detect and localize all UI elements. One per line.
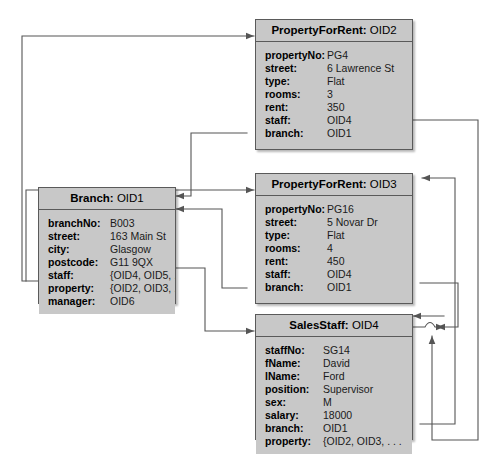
object-attributes-property-oid2: propertyNo: PG4 street: 6 Lawrence St ty… — [256, 42, 412, 146]
attribute-value: Flat — [327, 75, 345, 88]
attribute-name: type: — [265, 229, 327, 242]
attribute-row: staffNo: SG14 — [265, 344, 412, 357]
connector-oid2-branch-to-branch — [176, 133, 247, 196]
attribute-name: lName: — [265, 370, 323, 383]
attribute-name: property: — [265, 435, 323, 448]
object-box-branch-oid1[interactable]: Branch: OID1 branchNo: B003 street: 163 … — [38, 187, 176, 304]
attribute-value: {OID2, OID3, . . . } — [110, 282, 175, 295]
attribute-row: postcode: G11 9QX — [48, 256, 175, 269]
attribute-name: rent: — [265, 255, 327, 268]
object-header-property-oid3: PropertyForRent: OID3 — [256, 174, 412, 196]
connector-oid3-branch-to-branch — [176, 209, 247, 288]
attribute-value: 163 Main St — [110, 230, 166, 243]
attribute-value: 5 Novar Dr — [327, 216, 378, 229]
object-attributes-branch-oid1: branchNo: B003 street: 163 Main St city:… — [39, 210, 175, 314]
object-oid: OID3 — [370, 178, 397, 190]
attribute-value: PG4 — [327, 49, 348, 62]
attribute-value: PG16 — [327, 203, 354, 216]
object-header-salesstaff-oid4: SalesStaff: OID4 — [256, 315, 412, 337]
attribute-value: Supervisor — [323, 383, 373, 396]
attribute-row: staff: OID4 — [265, 114, 412, 127]
attribute-name: staffNo: — [265, 344, 323, 357]
object-class-name: SalesStaff: — [289, 319, 348, 331]
attribute-row: street: 6 Lawrence St — [265, 62, 412, 75]
attribute-value: OID6 — [110, 295, 135, 308]
attribute-row: rooms: 3 — [265, 88, 412, 101]
attribute-row: street: 5 Novar Dr — [265, 216, 412, 229]
attribute-row: propertyNo: PG4 — [265, 49, 412, 62]
connector-salesstaff-branch-lower — [413, 323, 444, 328]
attribute-value: OID1 — [323, 422, 348, 435]
attribute-value: 350 — [327, 101, 345, 114]
attribute-value: OID1 — [327, 127, 352, 140]
attribute-value: Flat — [327, 229, 345, 242]
attribute-name: property: — [48, 282, 110, 295]
object-box-property-oid2[interactable]: PropertyForRent: OID2 propertyNo: PG4 st… — [255, 19, 413, 150]
attribute-name: sex: — [265, 396, 323, 409]
attribute-name: staff: — [48, 269, 110, 282]
attribute-value: B003 — [110, 217, 135, 230]
attribute-name: fName: — [265, 357, 323, 370]
object-oid: OID2 — [370, 24, 397, 36]
attribute-row: rent: 350 — [265, 101, 412, 114]
object-box-salesstaff-oid4[interactable]: SalesStaff: OID4 staffNo: SG14 fName: Da… — [255, 314, 413, 440]
attribute-value: OID1 — [327, 281, 352, 294]
attribute-value: {OID2, OID3, . . . — [323, 435, 402, 448]
attribute-value: {OID4, OID5, . . . } — [110, 269, 175, 282]
attribute-name: staff: — [265, 114, 327, 127]
attribute-name: staff: — [265, 268, 327, 281]
object-class-name: Branch: — [70, 192, 113, 204]
attribute-name: branchNo: — [48, 217, 110, 230]
attribute-name: city: — [48, 243, 110, 256]
attribute-row: propertyNo: PG16 — [265, 203, 412, 216]
attribute-row: branchNo: B003 — [48, 217, 175, 230]
attribute-row: property: {OID2, OID3, . . . } — [48, 282, 175, 295]
attribute-row: staff: OID4 — [265, 268, 412, 281]
object-box-property-oid3[interactable]: PropertyForRent: OID3 propertyNo: PG16 s… — [255, 173, 413, 304]
attribute-value: 450 — [327, 255, 345, 268]
attribute-row: branch: OID1 — [265, 281, 412, 294]
attribute-name: propertyNo: — [265, 49, 327, 62]
attribute-value: 18000 — [323, 409, 352, 422]
connector-branch-staff-to-salesstaff — [168, 268, 254, 331]
attribute-row: rent: 450 — [265, 255, 412, 268]
attribute-row: branch: OID1 — [265, 127, 412, 140]
attribute-row: staff: {OID4, OID5, . . . } — [48, 269, 175, 282]
attribute-name: branch: — [265, 127, 327, 140]
attribute-value: 4 — [327, 242, 333, 255]
attribute-name: manager: — [48, 295, 110, 308]
attribute-name: street: — [265, 62, 327, 75]
attribute-row: sex: M — [265, 396, 412, 409]
attribute-name: rent: — [265, 101, 327, 114]
attribute-row: rooms: 4 — [265, 242, 412, 255]
attribute-row: fName: David — [265, 357, 412, 370]
attribute-name: position: — [265, 383, 323, 396]
attribute-value: OID4 — [327, 114, 352, 127]
attribute-value: Ford — [323, 370, 345, 383]
attribute-value: 6 Lawrence St — [327, 62, 394, 75]
attribute-row: position: Supervisor — [265, 383, 412, 396]
object-attributes-salesstaff-oid4: staffNo: SG14 fName: David lName: Ford p… — [256, 337, 412, 454]
attribute-value: 3 — [327, 88, 333, 101]
connector-salesstaff-property-to-oid3 — [420, 178, 455, 424]
attribute-name: postcode: — [48, 256, 110, 269]
attribute-name: rooms: — [265, 88, 327, 101]
object-attributes-property-oid3: propertyNo: PG16 street: 5 Novar Dr type… — [256, 196, 412, 300]
attribute-name: branch: — [265, 422, 323, 435]
attribute-row: city: Glasgow — [48, 243, 175, 256]
object-diagram-canvas: PropertyForRent: OID2 propertyNo: PG4 st… — [0, 0, 489, 461]
attribute-value: OID4 — [327, 268, 352, 281]
object-header-branch-oid1: Branch: OID1 — [39, 188, 175, 210]
object-header-property-oid2: PropertyForRent: OID2 — [256, 20, 412, 42]
attribute-value: M — [323, 396, 332, 409]
object-oid: OID4 — [352, 319, 379, 331]
attribute-name: rooms: — [265, 242, 327, 255]
object-oid: OID1 — [117, 192, 144, 204]
object-class-name: PropertyForRent: — [271, 24, 366, 36]
attribute-name: branch: — [265, 281, 327, 294]
attribute-name: street: — [265, 216, 327, 229]
attribute-name: salary: — [265, 409, 323, 422]
attribute-value: David — [323, 357, 350, 370]
attribute-value: G11 9QX — [110, 256, 153, 269]
attribute-name: propertyNo: — [265, 203, 327, 216]
